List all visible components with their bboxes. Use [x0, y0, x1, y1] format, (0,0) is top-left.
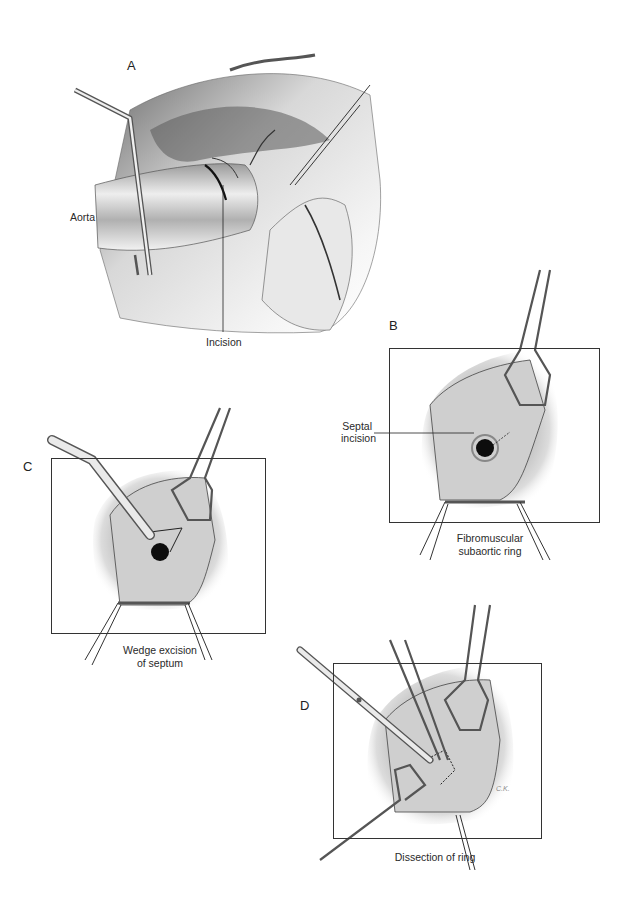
panel-c-letter: C: [23, 459, 32, 474]
caption-panel-b: Fibromuscular subaortic ring: [430, 532, 550, 558]
artist-signature: C.K.: [496, 783, 510, 795]
panel-d-letter: D: [300, 698, 309, 713]
caption-b-line2: subaortic ring: [430, 545, 550, 558]
panel-a-letter: A: [127, 58, 136, 73]
panel-d-frame: [333, 663, 542, 839]
label-aorta: Aorta: [70, 211, 95, 223]
label-septal-line2: incision: [341, 432, 372, 444]
caption-b-line1: Fibromuscular: [430, 532, 550, 545]
label-incision: Incision: [206, 336, 242, 348]
panel-b-frame: [389, 348, 600, 523]
caption-panel-d: Dissection of ring: [365, 851, 505, 864]
caption-c-line2: of septum: [100, 657, 220, 670]
surgical-illustration-figure: A B C D Aorta Incision Septal incision F…: [0, 0, 631, 920]
label-septal-incision: Septal incision: [341, 420, 372, 444]
panel-a-artwork: [75, 55, 381, 333]
caption-c-line1: Wedge excision: [100, 644, 220, 657]
panel-b-letter: B: [389, 318, 398, 333]
caption-panel-c: Wedge excision of septum: [100, 644, 220, 670]
label-septal-line1: Septal: [341, 420, 372, 432]
panel-c-frame: [51, 458, 266, 634]
